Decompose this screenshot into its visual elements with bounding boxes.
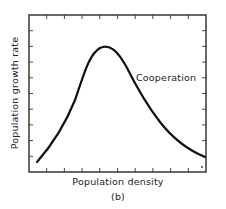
panel-label: (b): [0, 191, 226, 202]
chart-figure: Population growth rate Population densit…: [0, 0, 226, 209]
axis-ticks: [29, 15, 206, 172]
cooperation-curve: [37, 47, 205, 162]
axes-frame: [29, 15, 206, 172]
y-axis-label: Population growth rate: [9, 37, 20, 150]
end-dot: [201, 166, 203, 168]
x-axis-label: Population density: [0, 176, 226, 187]
curve-annotation: Cooperation: [136, 72, 196, 83]
